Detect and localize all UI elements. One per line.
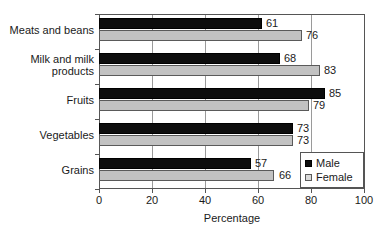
bar-female-grains: [99, 170, 274, 181]
x-tick-label-80: 80: [291, 194, 331, 206]
x-axis-title: Percentage: [99, 212, 365, 224]
category-label-grains: Grains: [0, 164, 94, 176]
bar-value-female-meats-and-beans: 76: [302, 30, 318, 41]
bar-male-milk-and-milk-products: [99, 53, 280, 64]
bar-male-meats-and-beans: [99, 18, 262, 29]
x-tick-40: [205, 189, 206, 193]
legend-swatch-male-icon: [305, 160, 312, 167]
bar-value-male-vegetables: 73: [293, 123, 309, 134]
category-label-fruits: Fruits: [0, 94, 94, 106]
category-label-meats-and-beans: Meats and beans: [0, 24, 94, 36]
bar-value-female-milk-and-milk-products: 83: [320, 65, 336, 76]
legend-item-female: Female: [305, 170, 363, 184]
bar-value-male-meats-and-beans: 61: [262, 18, 278, 29]
legend-swatch-female-icon: [305, 174, 312, 181]
legend: Male Female: [300, 152, 364, 188]
x-tick-80: [311, 189, 312, 193]
x-tick-label-60: 60: [238, 194, 278, 206]
legend-label-female: Female: [316, 170, 353, 184]
y-tick-1: [95, 49, 99, 50]
x-tick-0: [99, 189, 100, 193]
x-tick-100: [364, 189, 365, 193]
x-tick-20: [152, 189, 153, 193]
legend-label-male: Male: [316, 156, 340, 170]
bar-value-female-vegetables: 73: [293, 135, 309, 146]
bar-value-female-fruits: 79: [309, 100, 325, 111]
legend-item-male: Male: [305, 156, 363, 170]
bar-male-fruits: [99, 88, 325, 99]
x-tick-label-20: 20: [132, 194, 172, 206]
y-tick-0: [95, 14, 99, 15]
x-tick-60: [258, 189, 259, 193]
x-tick-label-40: 40: [185, 194, 225, 206]
x-tick-label-0: 0: [79, 194, 119, 206]
y-tick-2: [95, 84, 99, 85]
bar-male-vegetables: [99, 123, 293, 134]
bar-male-grains: [99, 158, 251, 169]
bar-female-meats-and-beans: [99, 30, 302, 41]
bar-female-milk-and-milk-products: [99, 65, 320, 76]
category-label-milk-and-milk-products: Milk and milk products: [0, 53, 94, 77]
y-tick-4: [95, 154, 99, 155]
bar-female-vegetables: [99, 135, 293, 146]
x-tick-label-100: 100: [344, 194, 384, 206]
bar-value-male-grains: 57: [251, 158, 267, 169]
bar-value-male-fruits: 85: [325, 88, 341, 99]
y-tick-3: [95, 119, 99, 120]
bar-chart: Male Female 61 76 Meats and beans 68 83 …: [0, 0, 392, 238]
category-label-vegetables: Vegetables: [0, 129, 94, 141]
bar-value-female-grains: 66: [275, 170, 291, 181]
bar-value-male-milk-and-milk-products: 68: [280, 53, 296, 64]
bar-female-fruits: [99, 100, 309, 111]
